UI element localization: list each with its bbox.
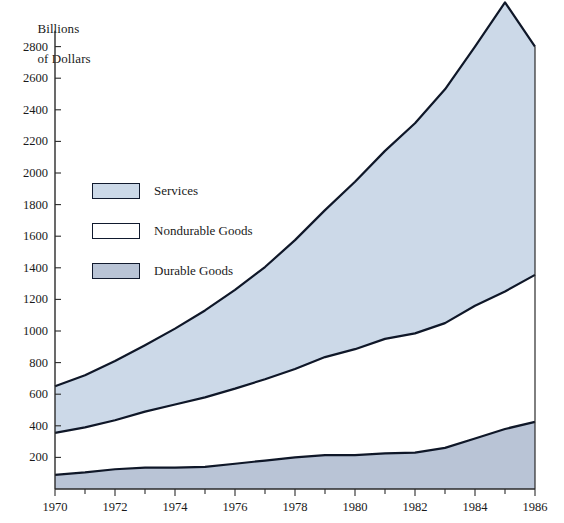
legend-label-services: Services <box>154 184 198 198</box>
y-tick-label-2800: 2800 <box>6 41 48 54</box>
x-tick-label-1980: 1980 <box>332 501 378 514</box>
y-tick-label-600: 600 <box>6 388 48 401</box>
x-tick-label-1986: 1986 <box>512 501 558 514</box>
legend-item-nondurable-goods[interactable]: Nondurable Goods <box>92 222 253 240</box>
legend-swatch-durable-goods <box>92 263 140 279</box>
y-tick-label-1600: 1600 <box>6 230 48 243</box>
y-tick-label-200: 200 <box>6 451 48 464</box>
area-chart: Billions of Dollars 20040060080010001200… <box>0 0 564 523</box>
legend-label-nondurable-goods: Nondurable Goods <box>154 224 253 238</box>
chart-legend: Services Nondurable Goods Durable Goods <box>92 182 253 302</box>
y-tick-label-2600: 2600 <box>6 72 48 85</box>
y-tick-label-800: 800 <box>6 357 48 370</box>
legend-swatch-nondurable-goods <box>92 223 140 239</box>
y-tick-label-2400: 2400 <box>6 104 48 117</box>
y-tick-label-2000: 2000 <box>6 167 48 180</box>
y-tick-label-400: 400 <box>6 420 48 433</box>
x-tick-label-1982: 1982 <box>392 501 438 514</box>
y-tick-label-2200: 2200 <box>6 135 48 148</box>
y-tick-label-1000: 1000 <box>6 325 48 338</box>
plot-area <box>0 0 564 523</box>
y-tick-label-1400: 1400 <box>6 262 48 275</box>
y-tick-label-1800: 1800 <box>6 199 48 212</box>
y-tick-label-1200: 1200 <box>6 293 48 306</box>
x-tick-label-1972: 1972 <box>92 501 138 514</box>
x-tick-label-1976: 1976 <box>212 501 258 514</box>
legend-label-durable-goods: Durable Goods <box>154 264 233 278</box>
legend-item-services[interactable]: Services <box>92 182 253 200</box>
x-tick-label-1974: 1974 <box>152 501 198 514</box>
legend-item-durable-goods[interactable]: Durable Goods <box>92 262 253 280</box>
x-tick-label-1984: 1984 <box>452 501 498 514</box>
legend-swatch-services <box>92 183 140 199</box>
x-tick-label-1978: 1978 <box>272 501 318 514</box>
x-tick-label-1970: 1970 <box>32 501 78 514</box>
